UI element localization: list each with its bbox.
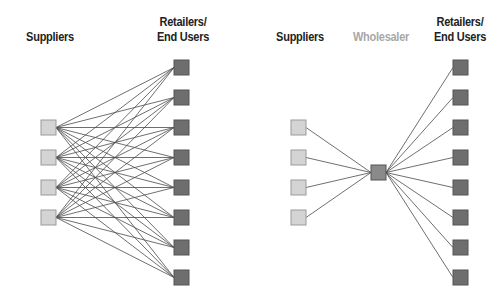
wholesaler-retailer-line: [386, 173, 453, 188]
wholesaler-retailer-line: [386, 173, 453, 248]
supplier-wholesaler-line: [306, 158, 371, 173]
retailer-node: [174, 270, 189, 285]
wholesaler-retailer-line: [386, 98, 453, 173]
retailer-node: [453, 210, 468, 225]
retailer-node: [174, 210, 189, 225]
connection-line: [56, 68, 174, 158]
retailer-node: [174, 60, 189, 75]
supplier-node: [291, 180, 306, 195]
wholesaler-retailer-line: [386, 128, 453, 173]
connection-line: [56, 218, 174, 278]
supplier-node: [291, 150, 306, 165]
supplier-node: [291, 210, 306, 225]
retailer-node: [453, 180, 468, 195]
supplier-node: [291, 120, 306, 135]
retailer-node: [174, 240, 189, 255]
retailer-node: [453, 270, 468, 285]
wholesaler-retailer-line: [386, 173, 453, 278]
distribution-network-diagram: [0, 0, 504, 303]
wholesaler-retailer-line: [386, 158, 453, 173]
supplier-node: [41, 120, 56, 135]
retailer-node: [453, 120, 468, 135]
connection-line: [56, 68, 174, 128]
retailer-node: [453, 240, 468, 255]
retailer-node: [453, 150, 468, 165]
retailer-node: [174, 180, 189, 195]
retailer-node: [453, 60, 468, 75]
retailer-node: [174, 120, 189, 135]
retailer-node: [174, 150, 189, 165]
wholesaler-retailer-line: [386, 173, 453, 218]
retailer-node: [453, 90, 468, 105]
supplier-wholesaler-line: [306, 173, 371, 188]
supplier-node: [41, 180, 56, 195]
supplier-wholesaler-line: [306, 173, 371, 218]
wholesaler-retailer-line: [386, 68, 453, 173]
retailer-node: [174, 90, 189, 105]
supplier-node: [41, 150, 56, 165]
connection-line: [56, 68, 174, 218]
wholesaler-node: [371, 165, 386, 180]
supplier-node: [41, 210, 56, 225]
connection-line: [56, 218, 174, 248]
supplier-wholesaler-line: [306, 128, 371, 173]
